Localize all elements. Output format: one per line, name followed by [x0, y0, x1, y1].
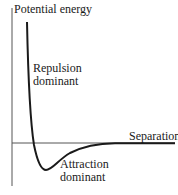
y-axis-label: Potential energy	[14, 3, 92, 15]
repulsion-annotation: Repulsion dominant	[33, 62, 82, 88]
attraction-line-2: dominant	[60, 171, 109, 184]
potential-energy-diagram: Potential energy Repulsion dominant Sepa…	[0, 0, 178, 195]
repulsion-line-2: dominant	[33, 75, 82, 88]
potential-curve	[27, 22, 175, 170]
x-axis-label: Separation	[129, 130, 178, 142]
attraction-annotation: Attraction dominant	[60, 158, 109, 184]
